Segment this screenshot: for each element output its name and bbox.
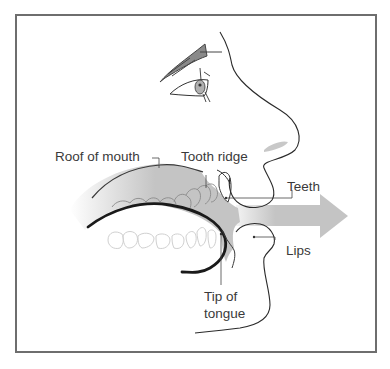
label-lips: Lips bbox=[286, 244, 311, 258]
nostril-shape bbox=[264, 141, 288, 152]
roof-of-mouth-shape bbox=[70, 164, 240, 262]
eyebrow-icon bbox=[160, 44, 222, 82]
label-tooth-ridge: Tooth ridge bbox=[181, 150, 248, 164]
airflow-arrow-icon bbox=[236, 194, 348, 238]
label-roof-of-mouth: Roof of mouth bbox=[55, 150, 140, 164]
mouth-diagram bbox=[0, 0, 390, 369]
label-tip-of-tongue-line1: Tip of bbox=[204, 290, 237, 304]
label-teeth: Teeth bbox=[287, 180, 320, 194]
label-tip-of-tongue-line2: tongue bbox=[204, 307, 245, 321]
lower-teeth bbox=[108, 228, 216, 249]
